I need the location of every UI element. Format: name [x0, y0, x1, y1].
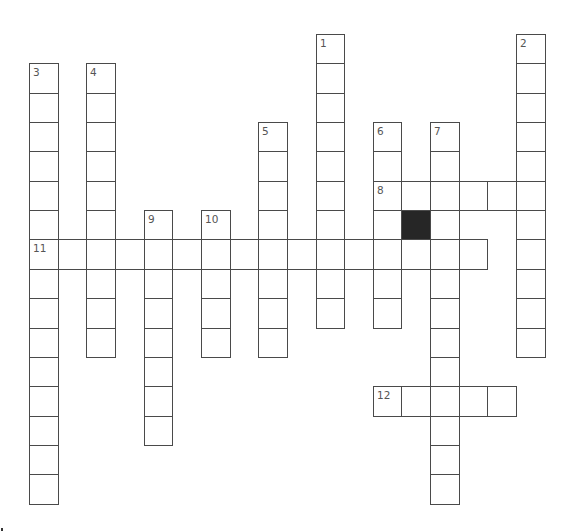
crossword-cell[interactable] — [316, 151, 345, 182]
crossword-cell[interactable] — [373, 239, 402, 270]
crossword-cell[interactable] — [430, 328, 460, 358]
crossword-cell[interactable] — [401, 181, 431, 211]
crossword-cell[interactable] — [373, 151, 402, 182]
crossword-cell[interactable] — [29, 474, 59, 505]
crossword-cell[interactable] — [86, 181, 116, 211]
crossword-cell[interactable] — [86, 269, 116, 299]
crossword-cell[interactable] — [258, 181, 288, 211]
crossword-cell[interactable] — [430, 151, 460, 182]
crossword-cell[interactable] — [115, 239, 145, 270]
crossword-cell[interactable] — [144, 386, 173, 417]
crossword-cell[interactable] — [29, 181, 59, 211]
crossword-cell[interactable] — [29, 328, 59, 358]
crossword-cell[interactable] — [316, 210, 345, 240]
crossword-cell[interactable] — [459, 181, 488, 211]
crossword-cell[interactable] — [316, 63, 345, 94]
crossword-cell[interactable] — [516, 63, 546, 94]
crossword-cell[interactable] — [172, 239, 202, 270]
crossword-cell[interactable]: 9 — [144, 210, 173, 240]
crossword-cell[interactable] — [459, 239, 488, 270]
crossword-cell[interactable] — [86, 122, 116, 152]
crossword-cell[interactable] — [144, 239, 173, 270]
crossword-cell[interactable] — [144, 416, 173, 446]
crossword-cell[interactable]: 10 — [201, 210, 231, 240]
crossword-cell[interactable] — [29, 386, 59, 417]
crossword-cell[interactable] — [86, 239, 116, 270]
crossword-cell[interactable] — [516, 269, 546, 299]
crossword-cell[interactable] — [258, 210, 288, 240]
crossword-cell[interactable] — [29, 269, 59, 299]
crossword-cell[interactable] — [58, 239, 87, 270]
crossword-cell[interactable] — [258, 269, 288, 299]
crossword-cell[interactable] — [430, 269, 460, 299]
crossword-cell[interactable] — [258, 298, 288, 329]
crossword-cell[interactable] — [144, 357, 173, 387]
crossword-cell[interactable] — [287, 239, 317, 270]
crossword-cell[interactable] — [487, 386, 517, 417]
crossword-cell[interactable] — [29, 93, 59, 123]
crossword-cell[interactable] — [430, 181, 460, 211]
crossword-cell[interactable] — [430, 357, 460, 387]
crossword-cell[interactable] — [516, 122, 546, 152]
crossword-cell[interactable] — [86, 298, 116, 329]
crossword-cell[interactable] — [29, 122, 59, 152]
crossword-cell[interactable] — [230, 239, 259, 270]
crossword-cell[interactable] — [516, 210, 546, 240]
crossword-cell[interactable] — [258, 151, 288, 182]
crossword-cell[interactable]: 11 — [29, 239, 59, 270]
crossword-cell[interactable] — [401, 239, 431, 270]
crossword-cell[interactable] — [29, 357, 59, 387]
crossword-cell[interactable]: 3 — [29, 63, 59, 94]
crossword-cell[interactable] — [487, 181, 517, 211]
crossword-cell[interactable] — [29, 151, 59, 182]
crossword-cell[interactable] — [258, 328, 288, 358]
crossword-cell[interactable] — [316, 181, 345, 211]
crossword-cell[interactable] — [144, 269, 173, 299]
crossword-cell[interactable] — [201, 298, 231, 329]
crossword-cell[interactable] — [258, 239, 288, 270]
crossword-cell[interactable] — [201, 239, 231, 270]
crossword-cell[interactable] — [344, 239, 374, 270]
crossword-cell[interactable] — [516, 328, 546, 358]
crossword-cell[interactable]: 7 — [430, 122, 460, 152]
crossword-cell[interactable] — [86, 328, 116, 358]
crossword-cell[interactable] — [201, 328, 231, 358]
crossword-cell[interactable] — [29, 445, 59, 475]
crossword-cell[interactable] — [373, 210, 402, 240]
crossword-cell[interactable]: 12 — [373, 386, 402, 417]
crossword-cell[interactable] — [516, 298, 546, 329]
crossword-cell[interactable] — [459, 386, 488, 417]
crossword-cell[interactable] — [29, 210, 59, 240]
crossword-cell[interactable] — [201, 269, 231, 299]
crossword-cell[interactable] — [430, 210, 460, 240]
crossword-cell[interactable] — [144, 328, 173, 358]
crossword-cell[interactable]: 4 — [86, 63, 116, 94]
crossword-cell[interactable] — [86, 93, 116, 123]
crossword-cell[interactable]: 8 — [373, 181, 402, 211]
crossword-cell[interactable] — [316, 269, 345, 299]
crossword-cell[interactable] — [430, 239, 460, 270]
crossword-cell[interactable] — [516, 181, 546, 211]
crossword-cell[interactable]: 2 — [516, 34, 546, 64]
crossword-cell[interactable] — [29, 416, 59, 446]
crossword-cell[interactable]: 1 — [316, 34, 345, 64]
crossword-cell[interactable] — [516, 239, 546, 270]
crossword-cell[interactable] — [373, 269, 402, 299]
crossword-cell[interactable] — [316, 298, 345, 329]
crossword-cell[interactable] — [316, 122, 345, 152]
crossword-cell[interactable] — [430, 298, 460, 329]
crossword-cell[interactable] — [29, 298, 59, 329]
crossword-cell[interactable] — [430, 416, 460, 446]
crossword-cell[interactable] — [430, 386, 460, 417]
crossword-cell[interactable] — [430, 445, 460, 475]
crossword-cell[interactable] — [86, 151, 116, 182]
crossword-cell[interactable] — [373, 298, 402, 329]
crossword-cell[interactable] — [430, 474, 460, 505]
crossword-cell[interactable] — [86, 210, 116, 240]
crossword-cell[interactable]: 6 — [373, 122, 402, 152]
crossword-cell[interactable] — [401, 386, 431, 417]
crossword-cell[interactable] — [316, 93, 345, 123]
crossword-cell[interactable] — [516, 93, 546, 123]
crossword-cell[interactable]: 5 — [258, 122, 288, 152]
crossword-cell[interactable] — [144, 298, 173, 329]
